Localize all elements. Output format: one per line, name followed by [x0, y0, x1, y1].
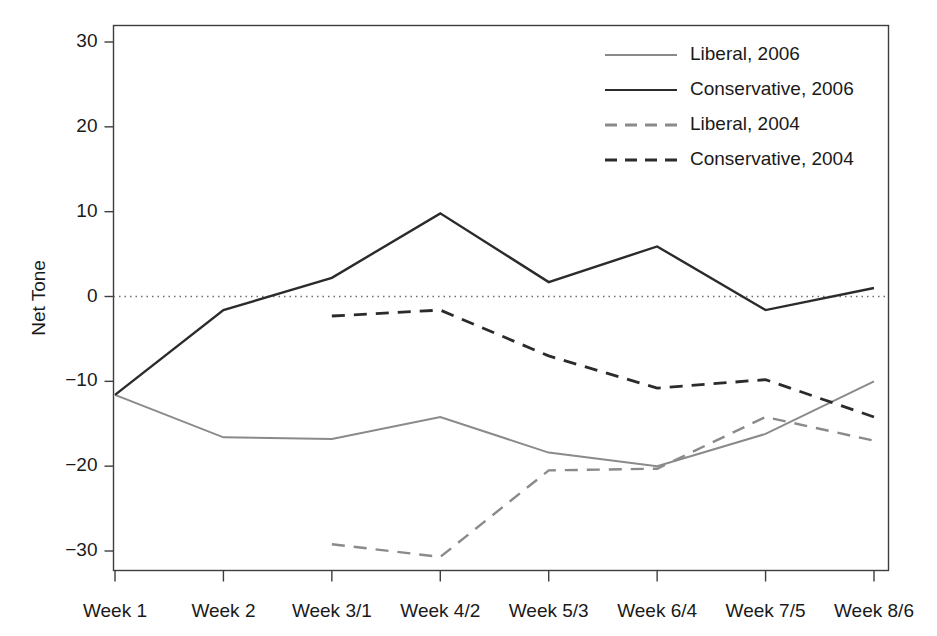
y-axis-tick-label: 30 [76, 30, 97, 51]
x-axis-tick-label: Week 6/4 [617, 600, 697, 621]
legend-label-1: Liberal, 2006 [690, 43, 800, 64]
y-axis-tick-label: 0 [87, 285, 98, 306]
x-axis-tick-label: Week 5/3 [509, 600, 589, 621]
legend-label-2: Conservative, 2006 [690, 78, 854, 99]
x-axis-tick-label: Week 1 [83, 600, 147, 621]
y-axis-tick-label: −30 [65, 539, 97, 560]
y-axis-tick-label: 10 [76, 200, 97, 221]
legend-label-4: Conservative, 2004 [690, 148, 854, 169]
x-axis-tick-label: Week 4/2 [400, 600, 480, 621]
x-axis-tick-label: Week 7/5 [726, 600, 806, 621]
y-axis-title: Net Tone [28, 260, 49, 336]
x-axis-tick-label: Week 3/1 [292, 600, 372, 621]
legend-label-3: Liberal, 2004 [690, 113, 800, 134]
y-axis-tick-label: 20 [76, 115, 97, 136]
net-tone-line-chart: 3020100−10−20−30 Week 1Week 2Week 3/1Wee… [0, 0, 937, 636]
chart-canvas: 3020100−10−20−30 Week 1Week 2Week 3/1Wee… [0, 0, 937, 636]
y-axis-tick-label: −20 [65, 454, 97, 475]
x-axis-tick-label: Week 8/6 [834, 600, 914, 621]
y-axis-tick-label: −10 [65, 369, 97, 390]
x-axis-tick-label: Week 2 [191, 600, 255, 621]
